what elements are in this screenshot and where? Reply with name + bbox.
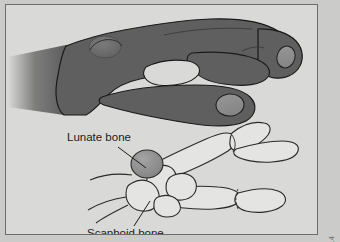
anatomy-artwork: Lunate bone Scaphoid bone (6, 5, 317, 234)
radius-edge-upper (90, 174, 132, 180)
ulna-edge (96, 205, 128, 223)
lunate-label: Lunate bone (67, 131, 131, 143)
carpal-lunate-highlight (131, 150, 163, 178)
scaphoid-label: Scaphoid bone (87, 227, 164, 234)
copyright-notice: © Cengage Learning 2014 (327, 116, 339, 236)
thumb-web-space (144, 60, 200, 85)
dorsal-wrist-bump (89, 36, 121, 58)
figure-panel: Lunate bone Scaphoid bone (6, 5, 317, 234)
copyright-text: © Cengage Learning 2014 (327, 236, 337, 242)
radius-edge-lower (88, 197, 126, 210)
figure-root: Lunate bone Scaphoid bone © Cengage Lear… (0, 0, 340, 242)
phalanx-lower-distal (235, 189, 286, 213)
hand-group (8, 19, 302, 126)
carpal-trapezium (154, 195, 181, 217)
